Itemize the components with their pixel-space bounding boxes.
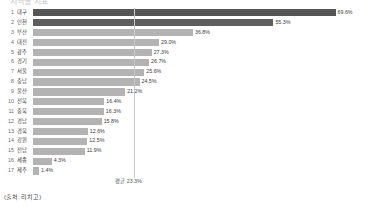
row-rank: 5: [2, 48, 14, 58]
region-bar-chart: 지역별 지표 1대구69.6%2인천55.3%3부산36.8%4대전29.0%5…: [0, 0, 376, 206]
bar: [33, 108, 104, 115]
chart-row: 2인천55.3%: [0, 18, 376, 28]
row-rank: 8: [2, 77, 14, 87]
chart-title-strip: 지역별 지표: [0, 0, 376, 7]
bar-value-label: 1.4%: [41, 166, 53, 176]
page-title: 지역별 지표: [10, 0, 48, 6]
row-rank: 3: [2, 28, 14, 38]
chart-row: 8충남24.5%: [0, 77, 376, 87]
chart-row: 4대전29.0%: [0, 38, 376, 48]
row-rank: 14: [2, 136, 14, 146]
row-rank: 13: [2, 127, 14, 137]
row-rank: 7: [2, 67, 14, 77]
bar-value-label: 55.3%: [275, 18, 290, 28]
row-rank: 2: [2, 18, 14, 28]
plot-area: 1대구69.6%2인천55.3%3부산36.8%4대전29.0%5광주27.3%…: [0, 8, 376, 176]
row-category-label: 전북: [17, 97, 31, 107]
row-category-label: 부산: [17, 28, 31, 38]
row-rank: 4: [2, 38, 14, 48]
chart-row: 10전북16.4%: [0, 97, 376, 107]
row-category-label: 대구: [17, 8, 31, 18]
bar-value-label: 29.0%: [161, 38, 176, 48]
row-rank: 9: [2, 87, 14, 97]
chart-row: 6경기26.7%: [0, 57, 376, 67]
source-note: (출처: 리치고): [4, 192, 41, 201]
bar-value-label: 12.6%: [90, 127, 105, 137]
bar: [33, 138, 87, 145]
chart-row: 17제주1.4%: [0, 166, 376, 176]
bar: [33, 88, 125, 95]
row-category-label: 서울: [17, 67, 31, 77]
chart-row: 7서울25.6%: [0, 67, 376, 77]
bar: [33, 98, 104, 105]
row-category-label: 광주: [17, 48, 31, 58]
bar-value-label: 15.8%: [104, 117, 119, 127]
row-rank: 6: [2, 57, 14, 67]
bar: [33, 59, 149, 66]
row-rank: 15: [2, 146, 14, 156]
chart-row: 12경남15.8%: [0, 117, 376, 127]
chart-row: 16세종4.3%: [0, 156, 376, 166]
row-rank: 1: [2, 8, 14, 18]
bar: [33, 69, 144, 76]
bar: [33, 19, 273, 26]
bar-value-label: 27.3%: [154, 48, 169, 58]
bar: [33, 158, 52, 165]
chart-row: 11충북16.3%: [0, 107, 376, 117]
row-category-label: 전남: [17, 146, 31, 156]
bar-value-label: 16.3%: [106, 107, 121, 117]
bar-value-label: 24.5%: [142, 77, 157, 87]
chart-row: 1대구69.6%: [0, 8, 376, 18]
row-category-label: 제주: [17, 166, 31, 176]
bar-value-label: 36.8%: [195, 28, 210, 38]
row-category-label: 울산: [17, 87, 31, 97]
row-category-label: 인천: [17, 18, 31, 28]
row-category-label: 경북: [17, 127, 31, 137]
bar: [33, 128, 88, 135]
row-rank: 17: [2, 166, 14, 176]
bar-value-label: 11.9%: [87, 146, 102, 156]
bar-value-label: 16.4%: [106, 97, 121, 107]
bar: [33, 39, 159, 46]
bar-value-label: 26.7%: [151, 57, 166, 67]
row-category-label: 대전: [17, 38, 31, 48]
bar-value-label: 69.6%: [338, 8, 353, 18]
chart-row: 5광주27.3%: [0, 48, 376, 58]
average-label: 평균 23.3%: [115, 177, 142, 185]
bar-value-label: 4.3%: [54, 156, 66, 166]
row-category-label: 경남: [17, 117, 31, 127]
chart-row: 14강원12.5%: [0, 136, 376, 146]
bar: [33, 167, 39, 174]
bar: [33, 118, 102, 125]
bar: [33, 78, 140, 85]
bar-value-label: 25.6%: [146, 67, 161, 77]
row-rank: 12: [2, 117, 14, 127]
chart-row: 3부산36.8%: [0, 28, 376, 38]
row-rank: 11: [2, 107, 14, 117]
bar-value-label: 12.5%: [89, 136, 104, 146]
average-reference-line: [134, 8, 135, 178]
row-category-label: 충북: [17, 107, 31, 117]
chart-row: 9울산21.2%: [0, 87, 376, 97]
bar: [33, 29, 193, 36]
bar: [33, 9, 336, 16]
chart-row: 13경북12.6%: [0, 127, 376, 137]
row-category-label: 충남: [17, 77, 31, 87]
row-rank: 10: [2, 97, 14, 107]
row-category-label: 세종: [17, 156, 31, 166]
bar: [33, 148, 85, 155]
row-rank: 16: [2, 156, 14, 166]
row-category-label: 경기: [17, 57, 31, 67]
chart-row: 15전남11.9%: [0, 146, 376, 156]
row-category-label: 강원: [17, 136, 31, 146]
